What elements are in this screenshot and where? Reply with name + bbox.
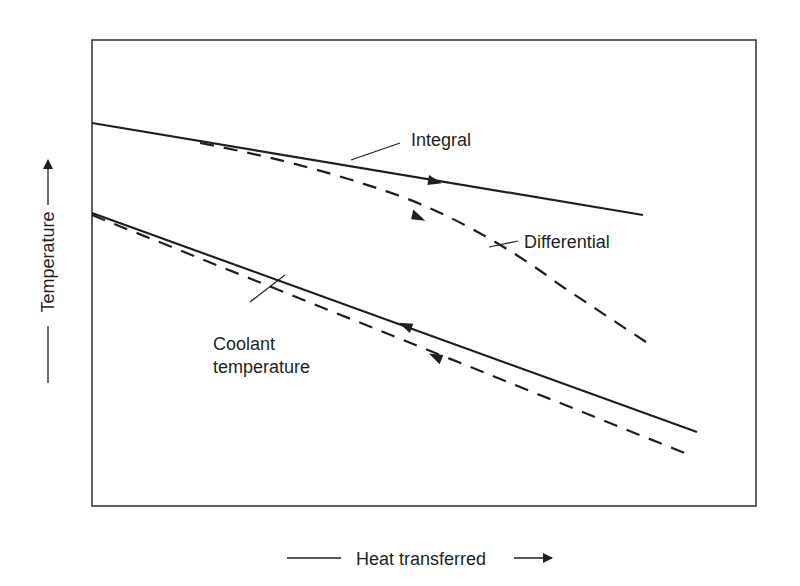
integral-label: Integral [411, 130, 471, 150]
integral-leader [351, 143, 400, 160]
coolant-label-line2: temperature [213, 357, 310, 377]
plot-frame [92, 40, 756, 506]
differential-arrow-icon [410, 210, 427, 224]
heat-transfer-diagram: Integral Differential Coolant temperatur… [0, 0, 800, 586]
coolant-leader [250, 275, 285, 302]
integral-line [92, 123, 643, 215]
coolant-solid-arrow-icon [397, 319, 414, 333]
y-axis-label-group: Temperature [38, 160, 58, 383]
x-axis-label-group: Heat transferred [287, 549, 552, 569]
x-axis-label: Heat transferred [356, 549, 486, 569]
coolant-label-line1: Coolant [213, 334, 275, 354]
y-axis-label: Temperature [38, 211, 58, 312]
differential-label: Differential [524, 232, 610, 252]
